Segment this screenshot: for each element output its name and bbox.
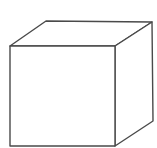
cube-front-face — [10, 46, 115, 146]
cube-diagram — [0, 0, 157, 148]
